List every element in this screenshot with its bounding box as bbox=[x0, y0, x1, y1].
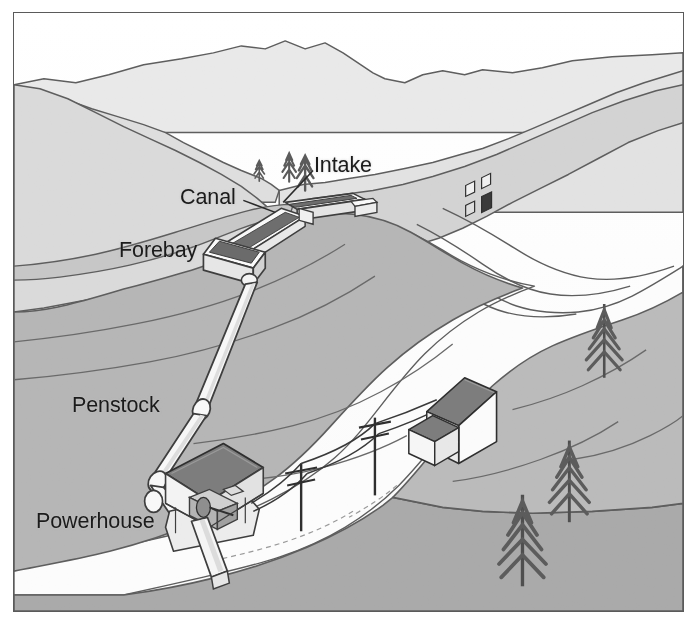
label-powerhouse: Powerhouse bbox=[36, 511, 155, 533]
label-penstock: Penstock bbox=[72, 395, 160, 417]
figure-root: Intake Canal Forebay Penstock Powerhouse bbox=[0, 0, 697, 625]
label-intake: Intake bbox=[314, 155, 372, 177]
label-forebay: Forebay bbox=[119, 240, 197, 262]
figure-frame: Intake Canal Forebay Penstock Powerhouse bbox=[13, 12, 684, 612]
label-canal: Canal bbox=[180, 187, 236, 209]
